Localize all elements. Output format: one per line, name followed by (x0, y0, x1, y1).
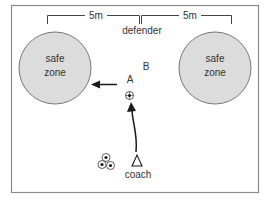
left-safe-zone: safe zone (19, 32, 91, 104)
right-zone-label-line1: safe (206, 53, 225, 64)
right-zone-label-line2: zone (204, 67, 226, 78)
player-b-label: B (143, 61, 150, 72)
left-distance-label: 5m (89, 10, 103, 21)
right-distance-label: 5m (183, 10, 197, 21)
right-safe-zone: safe zone (179, 32, 251, 104)
player-a-label: A (127, 74, 134, 85)
drill-diagram: 5m 5m defender safe zone safe zone B A (0, 0, 266, 203)
soccer-ball-icon (126, 92, 134, 100)
coach-label: coach (125, 169, 152, 180)
left-zone-label-line1: safe (46, 53, 65, 64)
defender-label: defender (122, 25, 162, 36)
left-zone-label-line2: zone (44, 67, 66, 78)
